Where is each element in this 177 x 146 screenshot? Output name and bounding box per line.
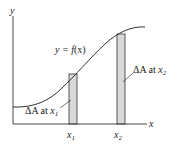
strip-label-x1: ΔA at x1 (25, 105, 58, 118)
curve-label: y = f(x) (54, 44, 86, 56)
area-diagram: y x y = f(x) x1 x2 ΔA at x1 ΔA at x2 (0, 0, 177, 146)
strip-x2 (117, 34, 125, 124)
y-axis-label: y (9, 5, 15, 16)
strip-label-x2: ΔA at x2 (133, 64, 167, 77)
tick-label-x1: x1 (66, 129, 75, 142)
strip-x1 (69, 74, 77, 124)
tick-label-x2: x2 (113, 129, 122, 142)
x-axis-label: x (148, 118, 154, 129)
